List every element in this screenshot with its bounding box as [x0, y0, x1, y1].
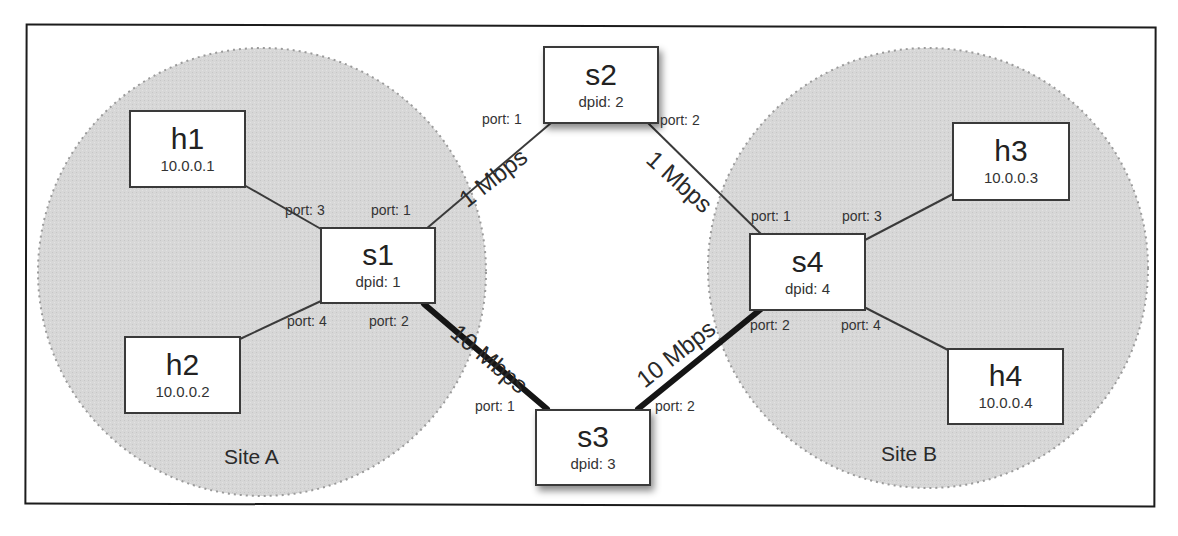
- host-h4[interactable]: h4 10.0.0.4: [947, 348, 1064, 425]
- host-h3[interactable]: h3 10.0.0.3: [952, 122, 1070, 201]
- port-label-s3-2: port: 2: [655, 398, 695, 414]
- host-ip: 10.0.0.4: [978, 394, 1032, 412]
- switch-s4[interactable]: s4 dpid: 4: [749, 233, 866, 311]
- port-label-s4-3: port: 3: [842, 208, 882, 224]
- port-label-s1-3: port: 3: [285, 202, 325, 218]
- host-name: h4: [989, 361, 1022, 391]
- port-label-s4-1: port: 1: [751, 208, 791, 224]
- switch-s3[interactable]: s3 dpid: 3: [535, 409, 651, 486]
- host-ip: 10.0.0.3: [984, 169, 1038, 187]
- port-label-s2-1: port: 1: [482, 111, 522, 127]
- port-label-s3-1: port: 1: [475, 398, 515, 414]
- site-a-label: Site A: [224, 445, 279, 469]
- switch-name: s3: [577, 422, 609, 452]
- host-name: h3: [994, 136, 1027, 166]
- switch-name: s1: [362, 240, 394, 270]
- host-h2[interactable]: h2 10.0.0.2: [124, 336, 241, 414]
- port-label-s4-2: port: 2: [750, 317, 790, 333]
- port-label-s4-4: port: 4: [841, 317, 881, 333]
- switch-name: s2: [585, 60, 617, 90]
- switch-s2[interactable]: s2 dpid: 2: [543, 46, 659, 124]
- host-name: h2: [166, 350, 199, 380]
- port-label-s2-2: port: 2: [660, 112, 700, 128]
- switch-name: s4: [792, 247, 824, 277]
- switch-s1[interactable]: s1 dpid: 1: [320, 227, 436, 304]
- port-label-s1-1: port: 1: [371, 202, 411, 218]
- site-b-label: Site B: [881, 442, 937, 466]
- switch-dpid: dpid: 1: [355, 273, 400, 291]
- switch-dpid: dpid: 4: [785, 280, 830, 298]
- host-ip: 10.0.0.1: [160, 157, 214, 175]
- network-topology-diagram: Site A Site B h1 10.0.0.1 h2 10.0.0.2 h3…: [0, 0, 1178, 536]
- switch-dpid: dpid: 3: [570, 455, 615, 473]
- port-label-s1-2: port: 2: [369, 313, 409, 329]
- host-name: h1: [171, 124, 204, 154]
- host-ip: 10.0.0.2: [155, 383, 209, 401]
- host-h1[interactable]: h1 10.0.0.1: [129, 110, 246, 188]
- port-label-s1-4: port: 4: [287, 313, 327, 329]
- switch-dpid: dpid: 2: [578, 93, 623, 111]
